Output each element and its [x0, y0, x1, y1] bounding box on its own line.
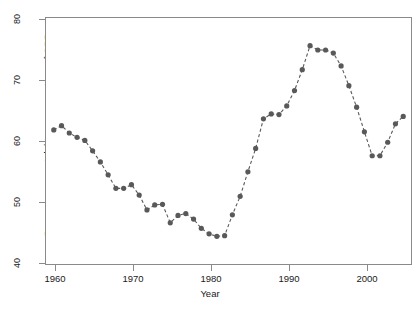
data-point — [121, 186, 126, 191]
data-point — [222, 233, 227, 238]
data-point — [253, 146, 258, 151]
x-tick-label-1980: 1980 — [191, 273, 231, 284]
data-point — [307, 43, 312, 48]
data-point — [98, 159, 103, 164]
data-point — [292, 88, 297, 93]
data-point — [401, 114, 406, 119]
debt-series — [46, 18, 411, 264]
x-tick-2000 — [367, 265, 368, 271]
data-point — [370, 153, 375, 158]
data-point — [214, 234, 219, 239]
data-point — [144, 207, 149, 212]
x-tick-1960 — [55, 265, 56, 271]
data-point — [90, 148, 95, 153]
x-tick-1970 — [133, 265, 134, 271]
data-point — [74, 135, 79, 140]
data-point — [238, 194, 243, 199]
data-point — [261, 116, 266, 121]
data-point — [377, 153, 382, 158]
plot-area — [46, 18, 411, 264]
y-tick-label-70: 70 — [12, 63, 22, 97]
data-point — [245, 169, 250, 174]
data-point — [191, 217, 196, 222]
x-tick-1980 — [211, 265, 212, 271]
data-point — [346, 83, 351, 88]
data-point — [82, 138, 87, 143]
data-point — [129, 182, 134, 187]
data-point — [276, 112, 281, 117]
chart-figure: 40 50 60 70 80 1960 1970 1980 1990 2000 … — [0, 0, 420, 311]
data-point — [206, 231, 211, 236]
data-point — [168, 220, 173, 225]
data-point — [137, 193, 142, 198]
data-point — [269, 111, 274, 116]
y-tick-label-60: 60 — [12, 124, 22, 158]
data-point — [51, 127, 56, 132]
data-point — [354, 105, 359, 110]
data-point — [284, 103, 289, 108]
data-point — [385, 140, 390, 145]
data-point — [106, 172, 111, 177]
data-point — [113, 186, 118, 191]
data-point — [323, 47, 328, 52]
data-point — [59, 123, 64, 128]
data-point — [175, 213, 180, 218]
data-point — [152, 202, 157, 207]
data-point — [67, 130, 72, 135]
x-tick-label-1970: 1970 — [113, 273, 153, 284]
data-point — [331, 50, 336, 55]
data-point — [315, 47, 320, 52]
x-axis-title: Year — [0, 288, 420, 299]
data-point — [339, 63, 344, 68]
y-tick-label-40: 40 — [12, 246, 22, 280]
data-point — [199, 226, 204, 231]
data-point — [230, 212, 235, 217]
plot-frame — [45, 17, 412, 265]
data-point — [300, 67, 305, 72]
x-tick-label-2000: 2000 — [347, 273, 387, 284]
data-point — [362, 129, 367, 134]
y-tick-label-50: 50 — [12, 185, 22, 219]
x-tick-label-1990: 1990 — [269, 273, 309, 284]
x-tick-label-1960: 1960 — [35, 273, 75, 284]
data-point — [393, 121, 398, 126]
x-tick-1990 — [289, 265, 290, 271]
y-tick-label-80: 80 — [12, 2, 22, 36]
data-point — [183, 211, 188, 216]
data-point — [160, 202, 165, 207]
